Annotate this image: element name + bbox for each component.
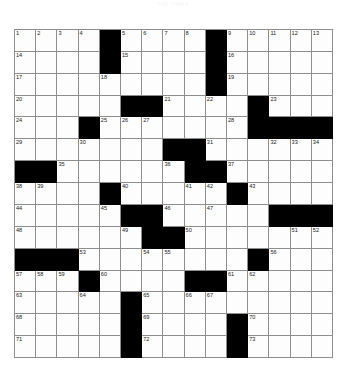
grid-letter-cell[interactable]: [100, 336, 121, 358]
grid-letter-cell[interactable]: [206, 227, 227, 249]
grid-letter-cell[interactable]: [163, 314, 184, 336]
grid-letter-cell[interactable]: [57, 139, 78, 161]
grid-letter-cell[interactable]: [57, 96, 78, 118]
grid-letter-cell[interactable]: [185, 117, 206, 139]
grid-letter-cell[interactable]: [79, 205, 100, 227]
grid-letter-cell[interactable]: [36, 139, 57, 161]
grid-letter-cell[interactable]: 41: [185, 183, 206, 205]
grid-letter-cell[interactable]: [248, 292, 269, 314]
grid-letter-cell[interactable]: [185, 336, 206, 358]
grid-letter-cell[interactable]: [269, 314, 290, 336]
grid-letter-cell[interactable]: [57, 183, 78, 205]
grid-letter-cell[interactable]: [312, 161, 333, 183]
grid-letter-cell[interactable]: [121, 271, 142, 293]
grid-letter-cell[interactable]: [312, 292, 333, 314]
grid-letter-cell[interactable]: 49: [121, 227, 142, 249]
grid-letter-cell[interactable]: [142, 161, 163, 183]
grid-letter-cell[interactable]: 24: [15, 117, 36, 139]
grid-letter-cell[interactable]: 5: [121, 30, 142, 52]
grid-letter-cell[interactable]: 67: [206, 292, 227, 314]
grid-letter-cell[interactable]: 1: [15, 30, 36, 52]
grid-letter-cell[interactable]: [291, 314, 312, 336]
grid-letter-cell[interactable]: 65: [142, 292, 163, 314]
grid-letter-cell[interactable]: [291, 336, 312, 358]
grid-letter-cell[interactable]: 39: [36, 183, 57, 205]
grid-letter-cell[interactable]: [269, 227, 290, 249]
grid-letter-cell[interactable]: [100, 292, 121, 314]
grid-letter-cell[interactable]: [57, 314, 78, 336]
grid-letter-cell[interactable]: [269, 336, 290, 358]
grid-letter-cell[interactable]: 44: [15, 205, 36, 227]
grid-letter-cell[interactable]: [79, 161, 100, 183]
grid-letter-cell[interactable]: [312, 96, 333, 118]
grid-letter-cell[interactable]: [142, 74, 163, 96]
grid-letter-cell[interactable]: 69: [142, 314, 163, 336]
grid-letter-cell[interactable]: 15: [121, 52, 142, 74]
grid-letter-cell[interactable]: [79, 74, 100, 96]
grid-letter-cell[interactable]: [36, 336, 57, 358]
grid-letter-cell[interactable]: [269, 52, 290, 74]
grid-letter-cell[interactable]: [291, 183, 312, 205]
grid-letter-cell[interactable]: 34: [312, 139, 333, 161]
grid-letter-cell[interactable]: 10: [248, 30, 269, 52]
grid-letter-cell[interactable]: 52: [312, 227, 333, 249]
grid-letter-cell[interactable]: 6: [142, 30, 163, 52]
grid-letter-cell[interactable]: [79, 314, 100, 336]
grid-letter-cell[interactable]: [100, 314, 121, 336]
grid-letter-cell[interactable]: [206, 336, 227, 358]
grid-letter-cell[interactable]: [163, 292, 184, 314]
grid-letter-cell[interactable]: 48: [15, 227, 36, 249]
grid-letter-cell[interactable]: [227, 227, 248, 249]
grid-letter-cell[interactable]: 71: [15, 336, 36, 358]
grid-letter-cell[interactable]: [312, 52, 333, 74]
grid-letter-cell[interactable]: 9: [227, 30, 248, 52]
grid-letter-cell[interactable]: [121, 249, 142, 271]
grid-letter-cell[interactable]: 18: [100, 74, 121, 96]
grid-letter-cell[interactable]: 64: [79, 292, 100, 314]
grid-letter-cell[interactable]: [163, 52, 184, 74]
grid-letter-cell[interactable]: 23: [269, 96, 290, 118]
grid-letter-cell[interactable]: 28: [227, 117, 248, 139]
grid-letter-cell[interactable]: [36, 96, 57, 118]
grid-letter-cell[interactable]: [79, 336, 100, 358]
grid-letter-cell[interactable]: [291, 292, 312, 314]
grid-letter-cell[interactable]: [227, 139, 248, 161]
grid-letter-cell[interactable]: [163, 74, 184, 96]
grid-letter-cell[interactable]: [57, 74, 78, 96]
grid-letter-cell[interactable]: [36, 117, 57, 139]
grid-letter-cell[interactable]: 4: [79, 30, 100, 52]
grid-letter-cell[interactable]: [57, 205, 78, 227]
grid-letter-cell[interactable]: 68: [15, 314, 36, 336]
grid-letter-cell[interactable]: 62: [248, 271, 269, 293]
grid-letter-cell[interactable]: [57, 117, 78, 139]
grid-letter-cell[interactable]: [185, 249, 206, 271]
grid-letter-cell[interactable]: [227, 249, 248, 271]
grid-letter-cell[interactable]: [57, 292, 78, 314]
grid-letter-cell[interactable]: 63: [15, 292, 36, 314]
grid-letter-cell[interactable]: [57, 227, 78, 249]
grid-letter-cell[interactable]: 60: [100, 271, 121, 293]
grid-letter-cell[interactable]: [100, 161, 121, 183]
grid-letter-cell[interactable]: [79, 52, 100, 74]
grid-letter-cell[interactable]: 55: [163, 249, 184, 271]
grid-letter-cell[interactable]: [185, 52, 206, 74]
grid-letter-cell[interactable]: [79, 96, 100, 118]
grid-letter-cell[interactable]: [100, 227, 121, 249]
grid-letter-cell[interactable]: 27: [142, 117, 163, 139]
grid-letter-cell[interactable]: [248, 139, 269, 161]
grid-letter-cell[interactable]: [312, 336, 333, 358]
grid-letter-cell[interactable]: [291, 271, 312, 293]
grid-letter-cell[interactable]: [185, 314, 206, 336]
grid-letter-cell[interactable]: [312, 183, 333, 205]
grid-letter-cell[interactable]: [206, 314, 227, 336]
grid-letter-cell[interactable]: 13: [312, 30, 333, 52]
grid-letter-cell[interactable]: [163, 336, 184, 358]
grid-letter-cell[interactable]: 53: [79, 249, 100, 271]
grid-letter-cell[interactable]: 40: [121, 183, 142, 205]
grid-letter-cell[interactable]: 12: [291, 30, 312, 52]
grid-letter-cell[interactable]: [57, 52, 78, 74]
grid-letter-cell[interactable]: 50: [185, 227, 206, 249]
grid-letter-cell[interactable]: [36, 74, 57, 96]
grid-letter-cell[interactable]: [36, 292, 57, 314]
grid-letter-cell[interactable]: 66: [185, 292, 206, 314]
